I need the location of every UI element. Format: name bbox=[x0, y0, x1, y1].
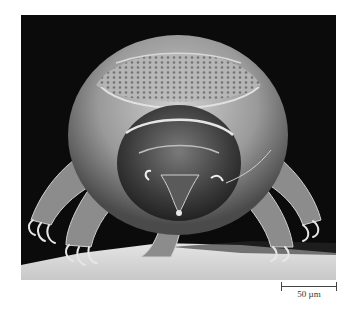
scale-bar-line bbox=[281, 286, 337, 287]
scale-bar-label: 50 µm bbox=[281, 289, 337, 299]
tardigrade-illustration bbox=[21, 15, 336, 280]
micrograph-image bbox=[21, 15, 336, 280]
